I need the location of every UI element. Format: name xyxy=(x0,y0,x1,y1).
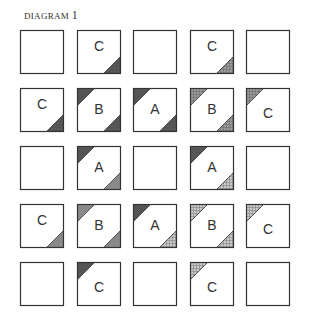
diagram-title-text: DIAGRAM xyxy=(24,11,69,21)
block-shape xyxy=(133,262,177,306)
block-shape xyxy=(20,30,64,74)
block-label: B xyxy=(77,217,121,233)
block-shape xyxy=(133,30,177,74)
block-label: B xyxy=(77,101,121,117)
quilt-block-r3c5 xyxy=(246,146,290,190)
block-label: A xyxy=(133,217,177,233)
block-label: C xyxy=(77,38,121,54)
block-label: A xyxy=(77,159,121,175)
quilt-block-r5c4: C xyxy=(190,262,234,306)
block-shape xyxy=(20,262,64,306)
block-label: C xyxy=(246,105,290,121)
quilt-block-r3c4: A xyxy=(190,146,234,190)
quilt-block-r4c1: C xyxy=(20,204,64,248)
block-shape xyxy=(246,146,290,190)
quilt-block-r4c2: B xyxy=(77,204,121,248)
quilt-block-r2c5: C xyxy=(246,88,290,132)
quilt-block-r1c4: C xyxy=(190,30,234,74)
block-label: C xyxy=(190,38,234,54)
quilt-block-r5c1 xyxy=(20,262,64,306)
quilt-block-r3c1 xyxy=(20,146,64,190)
quilt-block-r5c5 xyxy=(246,262,290,306)
block-shape xyxy=(246,262,290,306)
block-label: C xyxy=(77,279,121,295)
block-label: C xyxy=(20,96,64,112)
quilt-block-r4c5: C xyxy=(246,204,290,248)
quilt-block-r2c1: C xyxy=(20,88,64,132)
block-label: A xyxy=(190,159,234,175)
quilt-block-r1c3 xyxy=(133,30,177,74)
quilt-block-r1c2: C xyxy=(77,30,121,74)
diagram-title: DIAGRAM 1 xyxy=(24,8,78,23)
quilt-block-r1c5 xyxy=(246,30,290,74)
quilt-block-r5c2: C xyxy=(77,262,121,306)
quilt-block-r3c2: A xyxy=(77,146,121,190)
block-label: B xyxy=(190,217,234,233)
diagram-title-number: 1 xyxy=(72,8,78,22)
block-label: C xyxy=(246,221,290,237)
block-label: C xyxy=(190,279,234,295)
block-label: B xyxy=(190,101,234,117)
quilt-block-r4c3: A xyxy=(133,204,177,248)
block-shape xyxy=(20,146,64,190)
block-shape xyxy=(246,30,290,74)
quilt-block-r2c4: B xyxy=(190,88,234,132)
block-label: A xyxy=(133,101,177,117)
block-shape xyxy=(133,146,177,190)
quilt-block-r5c3 xyxy=(133,262,177,306)
quilt-block-r2c3: A xyxy=(133,88,177,132)
block-label: C xyxy=(20,212,64,228)
quilt-block-r1c1 xyxy=(20,30,64,74)
quilt-block-r2c2: B xyxy=(77,88,121,132)
quilt-block-r3c3 xyxy=(133,146,177,190)
quilt-block-r4c4: B xyxy=(190,204,234,248)
